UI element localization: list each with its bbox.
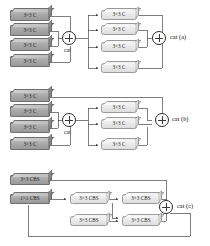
figure-canvas: 3×3 C 3×3 C 3×3 C 3×3 C cat 3×3 C 3×3 C … [0,0,210,246]
block-label: 3×3 C [23,125,36,130]
block-label: 3×3 CBS [79,196,99,201]
block-c-input-2: 1×1 CBS [10,194,50,204]
block-label: 3×3 C [23,109,36,114]
block-a-output-1: 3×3 C [101,10,137,20]
block-b-input-2: 3×3 C [10,106,50,117]
panel-caption-a: cat (a) [170,34,186,40]
block-label: 3×3 CBS [131,196,151,201]
panel-caption-b: cat (b) [172,116,189,122]
block-a-input-1: 3×3 C [10,10,50,21]
block-b-output-2: 3×3 C [101,119,137,129]
block-label: 1×1 CBS [20,196,40,201]
node-horizontal-tick [162,207,170,208]
concat-node-c [159,200,173,214]
concat-node-b-left [62,113,76,127]
block-a-output-4: 3×3 C [101,63,137,73]
block-a-input-2: 3×3 C [10,25,50,36]
block-label: 3×3 C [112,142,125,147]
block-c-input-1: 3×3 CBS [10,175,50,185]
merge-label-a: cat [64,48,71,54]
block-c-chain-top-1: 3×3 CBS [70,194,108,204]
block-label: 3×3 CBS [20,177,40,182]
node-horizontal-tick [158,120,166,121]
merge-label-b: cat [64,130,71,136]
block-a-input-3: 3×3 C [10,40,50,51]
block-label: 3×3 CBS [131,218,151,223]
block-a-output-3: 3×3 C [101,42,137,52]
block-label: 3×3 C [112,44,125,49]
block-label: 3×3 C [112,105,125,110]
block-label: 3×3 C [112,27,125,32]
node-horizontal-tick [65,120,73,121]
block-label: 3×3 C [23,59,36,64]
block-a-input-4: 3×3 C [10,56,50,67]
panel-caption-c: cat (c) [177,203,193,209]
block-label: 3×3 CBS [79,218,99,223]
node-horizontal-tick [65,38,73,39]
block-b-output-3: 3×3 C [101,140,137,150]
block-label: 3×3 C [23,94,36,99]
node-horizontal-tick [155,38,163,39]
block-b-output-1: 3×3 C [101,103,137,113]
block-label: 3×3 C [112,121,125,126]
block-label: 3×3 C [23,13,36,18]
block-a-output-2: 3×3 C [101,25,137,35]
block-c-chain-bottom-1: 3×3 CBS [70,216,108,226]
block-c-chain-bottom-2: 3×3 CBS [122,216,160,226]
block-b-input-3: 3×3 C [10,122,50,133]
block-label: 3×3 C [23,43,36,48]
block-label: 3×3 C [112,65,125,70]
concat-node-a-left [62,31,76,45]
block-label: 3×3 C [23,28,36,33]
block-label: 3×3 C [23,142,36,147]
concat-node-a-right [152,31,166,45]
block-b-input-4: 3×3 C [10,139,50,150]
block-label: 3×3 C [112,12,125,17]
block-c-chain-top-2: 3×3 CBS [122,194,160,204]
concat-node-b-right [155,113,169,127]
block-b-input-1: 3×3 C [10,91,50,102]
